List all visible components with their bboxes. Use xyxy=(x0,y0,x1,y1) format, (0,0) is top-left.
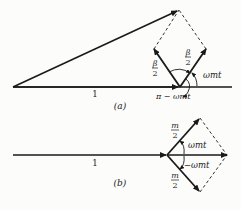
carrier-label-b: 1 xyxy=(92,158,97,168)
angle-arc-right-a xyxy=(192,73,197,86)
sideband-label-right-num-a: β xyxy=(185,48,191,57)
panel-a: β 2 β 2 ωmt π − ωmt 1 (a) xyxy=(13,10,232,111)
angle-label-lower-b: −ωmt xyxy=(184,160,210,170)
sideband-label-upper-num-b: m xyxy=(171,121,179,130)
angle-label-bottom-a: π − ωmt xyxy=(155,92,191,101)
sideband-label-lower-den-b: 2 xyxy=(172,181,177,190)
angle-label-right-a: ωmt xyxy=(203,70,222,80)
caption-b: (b) xyxy=(114,178,127,188)
sideband-right-arrow-a xyxy=(180,49,206,87)
angle-arc-upper-a xyxy=(169,69,190,73)
sideband-label-lower-num-b: m xyxy=(171,171,179,180)
caption-a: (a) xyxy=(114,101,127,111)
phasor-diagram: β 2 β 2 ωmt π − ωmt 1 (a) m 2 m 2 ωmt −ω… xyxy=(0,0,241,210)
angle-arc-upper-b xyxy=(180,141,184,154)
sideband-label-left-num-a: β xyxy=(152,59,158,68)
sideband-label-right-den-a: 2 xyxy=(185,58,190,67)
sideband-label-upper-den-b: 2 xyxy=(172,131,177,140)
dashed-right-a xyxy=(179,10,206,49)
angle-label-upper-b: ωmt xyxy=(188,140,207,150)
panel-b: m 2 m 2 ωmt −ωmt 1 (b) xyxy=(13,118,227,192)
sideband-label-left-den-a: 2 xyxy=(152,69,157,78)
carrier-label-a: 1 xyxy=(92,89,97,99)
